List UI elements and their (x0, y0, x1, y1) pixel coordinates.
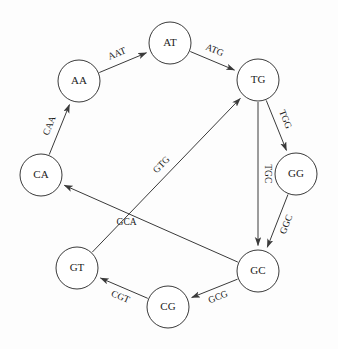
graph-edge-gc-ca (64, 185, 238, 262)
edge-label-tgc: TGC (263, 164, 273, 183)
graph-node-tg[interactable]: TG (237, 59, 279, 101)
graph-edge-gt-tg (92, 98, 240, 252)
edge-label-atg: ATG (204, 42, 225, 58)
node-label-tg: TG (251, 73, 266, 85)
de-bruijn-graph-diagram: AATATGTGGTGCGGCGCGCGTGTGGCACAA AAATTGGGG… (0, 0, 338, 349)
node-label-at: AT (163, 36, 177, 48)
graph-node-cg[interactable]: CG (147, 286, 189, 328)
edge-label-gcg: GCG (207, 288, 229, 305)
graph-node-gg[interactable]: GG (275, 153, 317, 195)
edge-label-cgt: CGT (110, 288, 132, 305)
graph-node-gt[interactable]: GT (56, 247, 98, 289)
graph-canvas: AATATGTGGTGCGGCGCGCGTGTGGCACAA AAATTGGGG… (0, 0, 338, 349)
node-label-gc: GC (250, 264, 265, 276)
graph-node-gc[interactable]: GC (237, 250, 279, 292)
edge-label-tgg: TGG (277, 108, 294, 130)
graph-node-ca[interactable]: CA (20, 154, 62, 196)
node-label-ca: CA (33, 168, 48, 180)
node-label-cg: CG (160, 300, 175, 312)
edge-label-aat: AAT (106, 45, 127, 61)
graph-node-at[interactable]: AT (149, 22, 191, 64)
edge-label-ggc: GGC (278, 213, 295, 235)
edge-label-caa: CAA (41, 114, 58, 136)
node-label-gg: GG (288, 167, 304, 179)
node-label-gt: GT (70, 261, 85, 273)
graph-node-aa[interactable]: AA (58, 60, 100, 102)
edge-label-gca: GCA (117, 217, 137, 227)
node-label-aa: AA (71, 74, 87, 86)
